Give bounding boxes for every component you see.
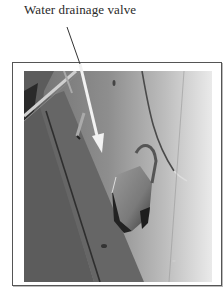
figure-label: Water drainage valve — [24, 2, 136, 18]
valve-photo — [24, 71, 212, 282]
leader-line — [67, 27, 80, 64]
photo-frame — [12, 62, 222, 286]
